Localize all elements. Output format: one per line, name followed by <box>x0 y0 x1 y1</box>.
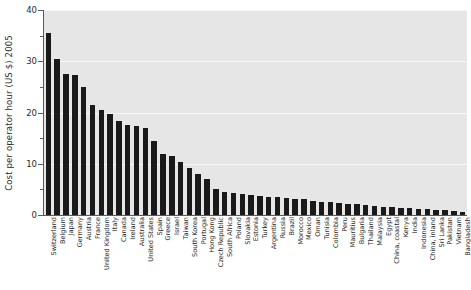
y-axis-tick-label: 0 <box>32 210 37 220</box>
y-axis-tick-mark <box>38 61 43 62</box>
bar <box>151 141 156 215</box>
x-axis-line <box>43 215 467 216</box>
y-axis-tick-label: 20 <box>26 108 37 118</box>
bar <box>46 33 51 215</box>
bar <box>125 125 130 215</box>
bar <box>240 194 245 215</box>
y-axis-tick-label: 40 <box>26 5 37 15</box>
bar <box>372 206 377 215</box>
bar <box>301 199 306 215</box>
bar <box>187 168 192 215</box>
bar <box>63 74 68 215</box>
bar <box>363 205 368 215</box>
bar <box>248 195 253 215</box>
bar <box>389 207 394 215</box>
bar <box>143 128 148 215</box>
bar <box>257 196 262 215</box>
y-axis-tick-labels: 010203040 <box>18 10 40 215</box>
bar <box>160 154 165 216</box>
bar <box>336 203 341 215</box>
y-axis-tick-mark <box>38 164 43 165</box>
bar <box>407 208 412 215</box>
x-axis-tick-labels: SwitzerlandBelgiumJapanGermanyAustriaFra… <box>44 217 467 289</box>
bar <box>90 105 95 215</box>
bar <box>328 202 333 215</box>
bar <box>204 179 209 215</box>
bars-container <box>44 10 467 215</box>
bar <box>319 202 324 215</box>
bar <box>213 189 218 215</box>
bar <box>292 199 297 215</box>
bar <box>72 75 77 215</box>
bar <box>195 174 200 215</box>
bar <box>107 114 112 215</box>
bar <box>99 110 104 215</box>
bar <box>116 121 121 215</box>
y-axis-minor-tick-mark <box>40 138 43 139</box>
bar <box>54 59 59 215</box>
y-axis-tick-label: 10 <box>26 159 37 169</box>
y-axis-tick-mark <box>38 10 43 11</box>
bar <box>381 207 386 215</box>
y-axis-minor-tick-mark <box>40 36 43 37</box>
bar <box>169 156 174 215</box>
bar-chart: Cost per operator hour (US $) 2005 01020… <box>0 0 471 290</box>
y-axis-tick-mark <box>38 113 43 114</box>
plot-area <box>44 10 467 215</box>
y-axis-title-text: Cost per operator hour (US $) 2005 <box>4 35 14 191</box>
bar <box>178 162 183 215</box>
bar <box>266 197 271 215</box>
y-axis-title: Cost per operator hour (US $) 2005 <box>0 0 18 225</box>
bar <box>310 201 315 215</box>
y-axis-tick-label: 30 <box>26 56 37 66</box>
bar <box>81 87 86 215</box>
bar <box>222 192 227 215</box>
bar <box>345 204 350 215</box>
bar <box>398 208 403 215</box>
y-axis-minor-tick-mark <box>40 87 43 88</box>
bar <box>134 126 139 215</box>
bar <box>284 198 289 215</box>
bar <box>354 204 359 215</box>
bar <box>231 193 236 215</box>
y-axis-minor-tick-mark <box>40 189 43 190</box>
bar <box>275 197 280 215</box>
